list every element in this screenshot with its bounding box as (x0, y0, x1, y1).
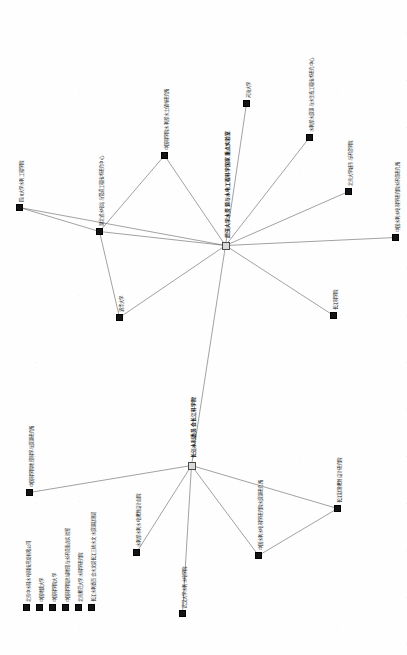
graph-node[interactable] (179, 610, 186, 617)
graph-node[interactable] (23, 604, 30, 611)
graph-hub-node[interactable] (222, 242, 230, 250)
graph-node[interactable] (392, 234, 399, 241)
graph-edge (120, 246, 226, 318)
graph-node[interactable] (334, 505, 341, 512)
graph-node[interactable] (62, 604, 69, 611)
graph-hub-node[interactable] (188, 462, 196, 470)
graph-edge (226, 246, 334, 316)
graph-edge (137, 466, 192, 553)
graph-node[interactable] (16, 204, 23, 211)
node-label: 清华大学 (119, 296, 124, 312)
node-label: 长江科学院 (333, 290, 338, 311)
node-label: 中国科学院流域地理与水环境重点实验室 (65, 528, 70, 602)
graph-edge (165, 156, 226, 246)
graph-node[interactable] (306, 134, 313, 141)
graph-node[interactable] (133, 549, 140, 556)
node-label: 中国科学院水利部水土保持研究所 (164, 89, 169, 151)
graph-edge (259, 509, 338, 556)
graph-edge (30, 466, 192, 493)
graph-edge (226, 238, 396, 246)
node-label: 中国科学院大学 (52, 573, 57, 602)
graph-node[interactable] (116, 314, 123, 321)
graph-node[interactable] (255, 552, 262, 559)
node-label: 武汉大学水资源与水电工程科学国家重点实验室 (225, 131, 230, 238)
node-label: 长江勘测规划设计研究院 (337, 458, 342, 503)
graph-node[interactable] (330, 312, 337, 319)
node-label: 长江水利委员会长江科学院 (191, 397, 196, 458)
graph-edge (192, 466, 259, 556)
graph-node[interactable] (49, 604, 56, 611)
node-label: 水利部水资源与水生态工程技术研究中心 (309, 58, 314, 132)
graph-node[interactable] (88, 604, 95, 611)
graph-edge (226, 138, 310, 246)
graph-edge (100, 156, 165, 232)
node-label: 湖北省水电站与管道工程技术研究中心 (99, 156, 104, 226)
graph-edge (192, 466, 338, 509)
graph-edge (192, 246, 226, 466)
node-label: 北京中水科水电科技开发有限公司 (26, 541, 31, 603)
graph-node[interactable] (26, 489, 33, 496)
graph-node[interactable] (243, 100, 250, 107)
node-label: 武汉大学水利水电学院 (182, 567, 187, 608)
graph-node[interactable] (161, 152, 168, 159)
node-label: 中国水利水电科学研究院水资源研究所 (258, 480, 263, 550)
graph-node[interactable] (96, 228, 103, 235)
graph-edge (226, 192, 349, 246)
graph-edge (20, 208, 226, 246)
node-label: 四川大学水利工程学院 (19, 161, 24, 202)
node-label: 中国科学院地理科学与资源研究所 (29, 426, 34, 488)
graph-node[interactable] (345, 188, 352, 195)
graph-edge (20, 208, 100, 232)
node-label: 中国水利水电科学研究院水环境研究所 (395, 162, 400, 232)
graph-node[interactable] (75, 604, 82, 611)
node-label: 水利部水利水电规划设计总院 (136, 494, 141, 547)
node-label: 河海大学 (246, 82, 251, 98)
network-graph-canvas: 四川大学水利工程学院湖北省水电站与管道工程技术研究中心中国科学院水利部水土保持研… (0, 0, 407, 655)
node-label: 北京大学城市与环境学院 (348, 141, 353, 186)
graph-edge (100, 232, 120, 318)
node-label: 中国地质大学 (39, 577, 44, 602)
edge-layer (0, 0, 407, 655)
node-label: 长江水利委员会水文局长江三峡水文水资源勘测局 (91, 512, 96, 602)
node-label: 北京师范大学水科学研究院 (78, 553, 83, 602)
graph-node[interactable] (36, 604, 43, 611)
